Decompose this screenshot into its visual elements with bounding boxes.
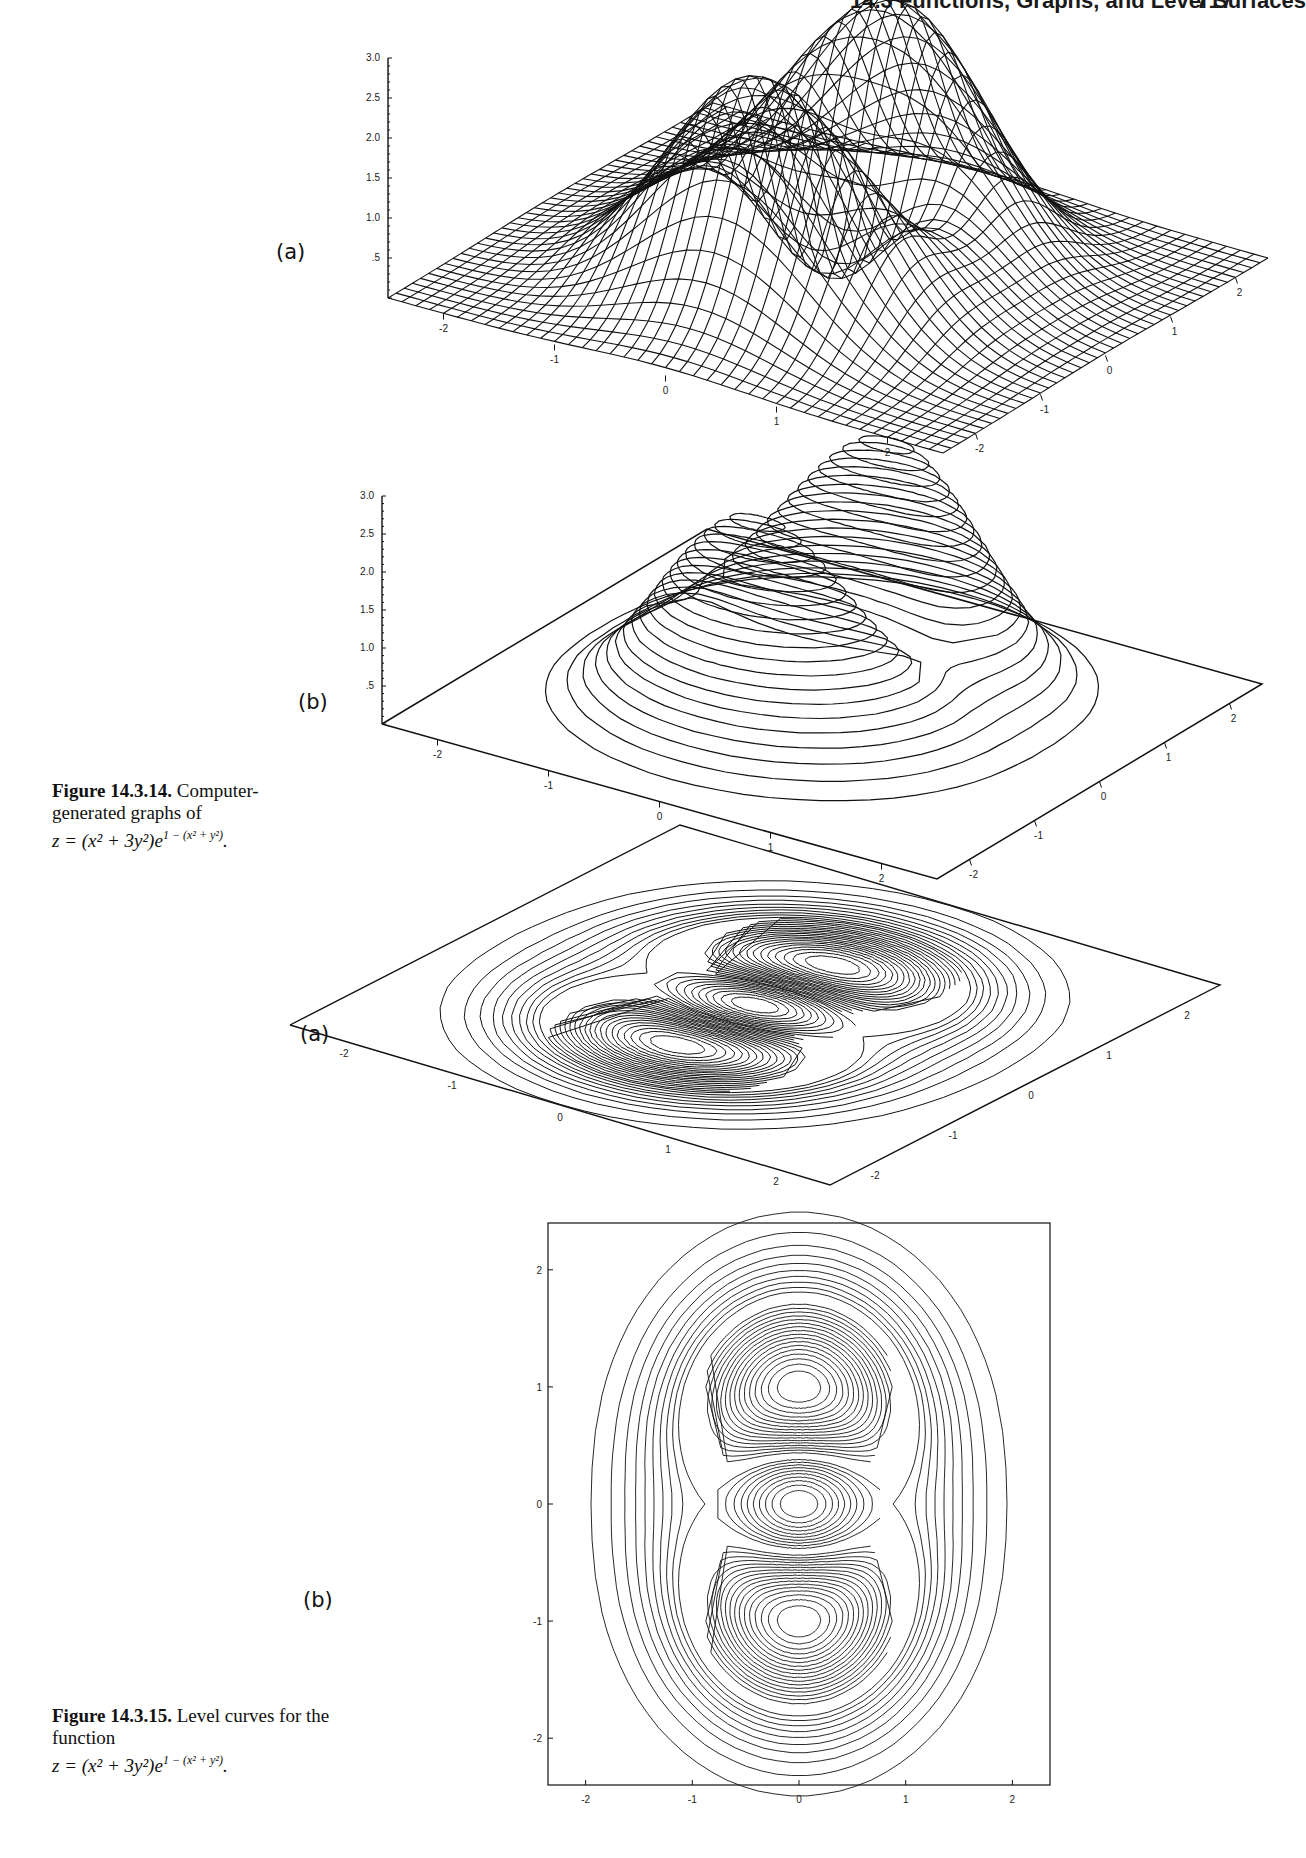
figure-14-3-15b-plot: -2-1012210-1-2 [533, 1212, 1050, 1805]
svg-text:2: 2 [879, 873, 885, 884]
svg-text:-2: -2 [433, 749, 442, 760]
svg-text:-1: -1 [533, 1616, 542, 1627]
svg-text:-2: -2 [581, 1794, 590, 1805]
svg-text:1: 1 [1106, 1050, 1112, 1061]
svg-text:.5: .5 [372, 252, 381, 263]
svg-text:1.0: 1.0 [366, 212, 380, 223]
svg-text:1.5: 1.5 [360, 604, 374, 615]
figure-14-3-14a-plot: .51.01.52.02.53.0-2-1012-2-1012 [366, 0, 1268, 457]
figure-14-3-14b-plot: .51.01.52.02.53.0-2-1012-2-1012 [360, 436, 1262, 884]
svg-text:.5: .5 [366, 680, 375, 691]
svg-text:-1: -1 [688, 1794, 697, 1805]
svg-text:2: 2 [1237, 287, 1243, 298]
svg-text:-1: -1 [1040, 404, 1049, 415]
svg-text:-1: -1 [448, 1080, 457, 1091]
svg-text:0: 0 [557, 1112, 563, 1123]
svg-text:2.5: 2.5 [366, 92, 380, 103]
svg-text:1: 1 [665, 1144, 671, 1155]
svg-text:1: 1 [536, 1382, 542, 1393]
svg-text:2: 2 [1010, 1794, 1016, 1805]
svg-text:0: 0 [796, 1794, 802, 1805]
svg-text:0: 0 [663, 385, 669, 396]
svg-text:3.0: 3.0 [366, 52, 380, 63]
svg-text:0: 0 [1028, 1090, 1034, 1101]
svg-text:2.0: 2.0 [366, 132, 380, 143]
svg-text:1: 1 [774, 416, 780, 427]
svg-text:-1: -1 [1034, 830, 1043, 841]
figure-14-3-15a-plot: -2-1012-2-1012 [290, 825, 1220, 1187]
svg-text:1.0: 1.0 [360, 642, 374, 653]
svg-text:1.5: 1.5 [366, 172, 380, 183]
svg-text:-2: -2 [871, 1170, 880, 1181]
svg-text:2: 2 [1231, 713, 1237, 724]
svg-text:-2: -2 [969, 869, 978, 880]
svg-text:2: 2 [1184, 1010, 1190, 1021]
svg-text:1: 1 [1166, 752, 1172, 763]
svg-text:2.0: 2.0 [360, 566, 374, 577]
svg-text:2: 2 [773, 1176, 779, 1187]
svg-text:-2: -2 [439, 323, 448, 334]
svg-text:2: 2 [536, 1265, 542, 1276]
svg-text:-1: -1 [544, 780, 553, 791]
svg-text:0: 0 [657, 811, 663, 822]
svg-text:-1: -1 [550, 354, 559, 365]
svg-text:0: 0 [1101, 791, 1107, 802]
svg-text:1: 1 [1172, 326, 1178, 337]
svg-text:-2: -2 [975, 443, 984, 454]
svg-text:0: 0 [536, 1499, 542, 1510]
svg-text:-2: -2 [533, 1733, 542, 1744]
svg-text:-1: -1 [949, 1130, 958, 1141]
svg-text:1: 1 [903, 1794, 909, 1805]
svg-text:-2: -2 [340, 1048, 349, 1059]
svg-text:2.5: 2.5 [360, 528, 374, 539]
svg-text:3.0: 3.0 [360, 490, 374, 501]
svg-text:0: 0 [1107, 365, 1113, 376]
